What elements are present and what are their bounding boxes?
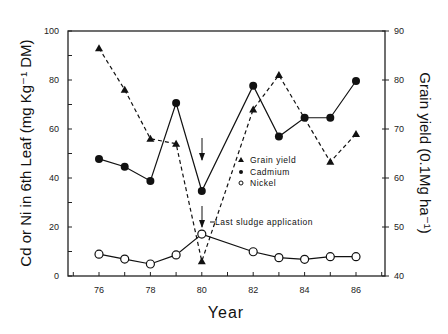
triangle-icon bbox=[238, 157, 244, 162]
plot-frame bbox=[68, 31, 385, 276]
x-axis-label: Year bbox=[208, 304, 244, 321]
svg-text:100: 100 bbox=[44, 26, 59, 36]
svg-text:70: 70 bbox=[394, 124, 404, 134]
svg-text:40: 40 bbox=[49, 173, 59, 183]
svg-text:80: 80 bbox=[49, 75, 59, 85]
series-layer bbox=[95, 44, 360, 268]
right-y-axis-label: Grain yield (0.1Mg ha⁻¹) bbox=[417, 72, 434, 233]
annotation-last-sludge: Last sludge application bbox=[215, 217, 313, 227]
svg-text:86: 86 bbox=[351, 285, 361, 295]
svg-text:60: 60 bbox=[49, 124, 59, 134]
svg-text:76: 76 bbox=[94, 285, 104, 295]
open-circle-icon bbox=[239, 181, 243, 185]
svg-text:50: 50 bbox=[394, 222, 404, 232]
svg-text:80: 80 bbox=[394, 75, 404, 85]
legend-nickel: Nickel bbox=[250, 178, 276, 188]
svg-text:90: 90 bbox=[394, 26, 404, 36]
legend-grain-yield: Grain yield bbox=[250, 155, 296, 165]
svg-text:20: 20 bbox=[49, 222, 59, 232]
annotation-arrows bbox=[199, 138, 215, 228]
svg-text:78: 78 bbox=[145, 285, 155, 295]
legend: Grain yield Cadmium Nickel bbox=[238, 155, 296, 188]
left-y-axis-label: Cd or Ni in 6th Leaf (mg Kg⁻¹ DM) bbox=[17, 39, 34, 266]
svg-text:60: 60 bbox=[394, 173, 404, 183]
svg-text:82: 82 bbox=[248, 285, 258, 295]
svg-text:80: 80 bbox=[197, 285, 207, 295]
svg-text:40: 40 bbox=[394, 271, 404, 281]
svg-text:84: 84 bbox=[300, 285, 310, 295]
chart: 767880828486 020406080100 405060708090 L… bbox=[0, 0, 448, 334]
svg-text:0: 0 bbox=[54, 271, 59, 281]
filled-circle-icon bbox=[239, 170, 243, 174]
legend-cadmium: Cadmium bbox=[250, 167, 290, 177]
